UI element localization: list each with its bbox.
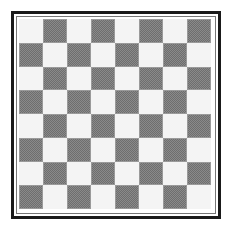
chessboard[interactable] <box>19 19 211 209</box>
square-a6[interactable] <box>19 67 43 91</box>
square-h6[interactable] <box>187 67 211 91</box>
square-g4[interactable] <box>163 114 187 138</box>
square-a3[interactable] <box>19 138 43 162</box>
square-d6[interactable] <box>91 67 115 91</box>
square-d3[interactable] <box>91 138 115 162</box>
square-c4[interactable] <box>67 114 91 138</box>
square-c1[interactable] <box>67 185 91 209</box>
square-h1[interactable] <box>187 185 211 209</box>
square-e7[interactable] <box>115 43 139 67</box>
square-h7[interactable] <box>187 43 211 67</box>
square-e5[interactable] <box>115 90 139 114</box>
square-a7[interactable] <box>19 43 43 67</box>
square-h8[interactable] <box>187 19 211 43</box>
square-b8[interactable] <box>43 19 67 43</box>
square-e1[interactable] <box>115 185 139 209</box>
square-b6[interactable] <box>43 67 67 91</box>
square-f1[interactable] <box>139 185 163 209</box>
square-e8[interactable] <box>115 19 139 43</box>
square-f2[interactable] <box>139 162 163 186</box>
square-c6[interactable] <box>67 67 91 91</box>
square-e4[interactable] <box>115 114 139 138</box>
square-g3[interactable] <box>163 138 187 162</box>
square-f3[interactable] <box>139 138 163 162</box>
square-b4[interactable] <box>43 114 67 138</box>
square-c2[interactable] <box>67 162 91 186</box>
square-f6[interactable] <box>139 67 163 91</box>
square-f7[interactable] <box>139 43 163 67</box>
square-a5[interactable] <box>19 90 43 114</box>
board-inner-frame <box>16 16 216 214</box>
square-b1[interactable] <box>43 185 67 209</box>
square-d1[interactable] <box>91 185 115 209</box>
square-d4[interactable] <box>91 114 115 138</box>
square-f8[interactable] <box>139 19 163 43</box>
square-c3[interactable] <box>67 138 91 162</box>
square-b7[interactable] <box>43 43 67 67</box>
square-c5[interactable] <box>67 90 91 114</box>
square-g7[interactable] <box>163 43 187 67</box>
square-h3[interactable] <box>187 138 211 162</box>
square-b2[interactable] <box>43 162 67 186</box>
square-g1[interactable] <box>163 185 187 209</box>
square-a8[interactable] <box>19 19 43 43</box>
board-outer-frame <box>11 11 221 219</box>
square-f4[interactable] <box>139 114 163 138</box>
square-c7[interactable] <box>67 43 91 67</box>
square-a1[interactable] <box>19 185 43 209</box>
square-e3[interactable] <box>115 138 139 162</box>
square-e6[interactable] <box>115 67 139 91</box>
square-b3[interactable] <box>43 138 67 162</box>
square-a2[interactable] <box>19 162 43 186</box>
square-d7[interactable] <box>91 43 115 67</box>
square-d8[interactable] <box>91 19 115 43</box>
square-a4[interactable] <box>19 114 43 138</box>
square-d5[interactable] <box>91 90 115 114</box>
square-h2[interactable] <box>187 162 211 186</box>
square-g6[interactable] <box>163 67 187 91</box>
square-h5[interactable] <box>187 90 211 114</box>
square-h4[interactable] <box>187 114 211 138</box>
square-g8[interactable] <box>163 19 187 43</box>
square-c8[interactable] <box>67 19 91 43</box>
square-f5[interactable] <box>139 90 163 114</box>
square-g5[interactable] <box>163 90 187 114</box>
square-d2[interactable] <box>91 162 115 186</box>
square-g2[interactable] <box>163 162 187 186</box>
square-b5[interactable] <box>43 90 67 114</box>
square-e2[interactable] <box>115 162 139 186</box>
